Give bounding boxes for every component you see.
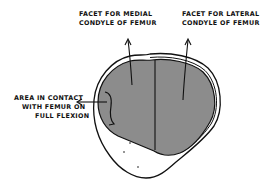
dot — [129, 142, 131, 144]
dot — [123, 151, 125, 153]
label-medial-line1: Facet for medial — [79, 10, 157, 19]
label-contact-line2: with femur on — [22, 103, 88, 112]
label-contact-line1: Area in contact — [14, 94, 88, 103]
label-medial-facet: Facet for medial condyle of femur — [79, 10, 157, 28]
dot — [137, 166, 139, 168]
label-contact-area: Area in contact with femur on full flexi… — [14, 94, 88, 121]
label-contact-line3: full flexion — [35, 112, 88, 121]
label-lateral-facet: Facet for lateral condyle of femur — [182, 10, 260, 28]
label-medial-line2: condyle of femur — [79, 19, 157, 28]
label-lateral-line2: condyle of femur — [182, 19, 260, 28]
tibial-plateau-diagram: Facet for medial condyle of femur Facet … — [0, 0, 272, 191]
label-lateral-line1: Facet for lateral — [182, 10, 260, 19]
